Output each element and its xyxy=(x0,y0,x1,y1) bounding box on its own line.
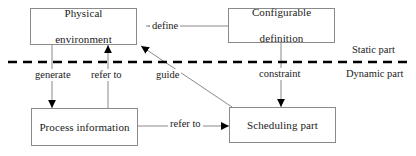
node-physical-environment-label: Physicalenvironment xyxy=(49,7,118,46)
edge-label-refer-to-right: refer to xyxy=(168,118,203,130)
edge-label-define: define xyxy=(150,20,180,32)
node-scheduling-part[interactable]: Scheduling part xyxy=(229,107,336,143)
edge-label-guide: guide xyxy=(154,69,181,81)
edge-label-constraint: constraint xyxy=(257,68,302,80)
partition-label-static: Static part xyxy=(352,44,395,56)
diagram-canvas: Physicalenvironment Configurabledefiniti… xyxy=(0,0,416,156)
edge-label-generate: generate xyxy=(33,69,73,81)
edge-label-refer-to-up: refer to xyxy=(89,69,124,81)
node-scheduling-part-label: Scheduling part xyxy=(244,119,321,132)
node-configurable-definition[interactable]: Configurabledefinition xyxy=(228,8,335,43)
node-process-information[interactable]: Process information xyxy=(31,108,138,146)
partition-label-dynamic: Dynamic part xyxy=(346,68,403,80)
node-configurable-definition-label: Configurabledefinition xyxy=(246,6,317,45)
node-process-information-label: Process information xyxy=(36,121,132,134)
node-physical-environment[interactable]: Physicalenvironment xyxy=(30,8,137,45)
